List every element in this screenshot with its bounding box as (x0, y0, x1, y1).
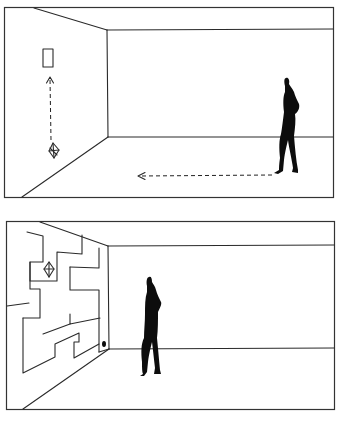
bottom-panel-frame (7, 222, 335, 410)
black-dot-icon (102, 341, 106, 347)
illustration-canvas (0, 0, 338, 426)
bottom-panel (7, 222, 335, 410)
top-panel (5, 8, 334, 198)
illustration: room-with-target-rectangle room-with-maz… (0, 0, 338, 426)
